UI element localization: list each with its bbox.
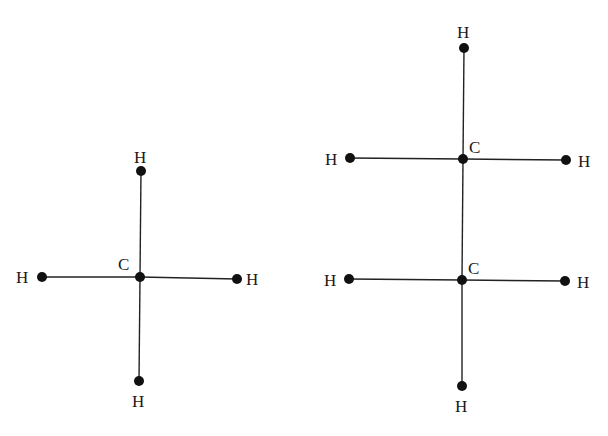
atom-label-h4: H [246,270,258,289]
atom-label-h5: H [577,273,589,292]
atom-label-h2: H [325,150,337,169]
atom-dot-c1 [458,154,468,164]
atom-label-h6: H [455,397,467,416]
atom-dot-c1 [135,272,145,282]
bond-c1-h3 [463,159,566,160]
atom-dot-h1 [136,166,146,176]
bond-c2-h5 [462,280,565,281]
structural-formula-svg: CHHHHCCHHHHHH [0,0,608,436]
bond-c1-h1 [463,48,464,159]
atom-dot-h2 [134,376,144,386]
atom-dot-h3 [37,272,47,282]
bond-c1-h2 [350,158,463,159]
atom-dot-h4 [232,274,242,284]
atom-dot-h4 [344,274,354,284]
atom-label-h4: H [324,271,336,290]
atom-label-h1: H [134,148,146,167]
atom-label-c1: C [469,138,480,157]
atom-dot-h5 [560,276,570,286]
atom-label-h1: H [457,23,469,42]
atom-dot-h2 [345,153,355,163]
molecule-ethane: CCHHHHHH [324,23,590,416]
molecule-methane: CHHHH [16,148,258,411]
atom-label-h3: H [16,268,28,287]
atom-label-c2: C [468,259,479,278]
atom-label-h3: H [578,152,590,171]
bond-c1-h1 [140,171,141,277]
bond-c1-h4 [140,277,237,279]
atom-dot-c2 [457,275,467,285]
bond-c1-h2 [139,277,140,381]
atom-label-h2: H [132,392,144,411]
atom-dot-h6 [457,381,467,391]
bond-c2-h4 [349,279,462,280]
atom-dot-h1 [459,43,469,53]
diagram-canvas: CHHHHCCHHHHHH [0,0,608,436]
bond-c1-c2 [462,159,463,280]
atom-dot-h3 [561,155,571,165]
atom-label-c1: C [118,255,129,274]
